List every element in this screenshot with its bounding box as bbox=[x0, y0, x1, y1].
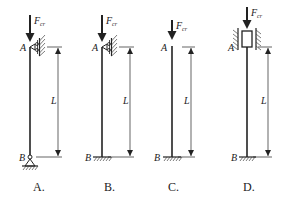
length-label: L bbox=[50, 95, 57, 106]
length-dimension bbox=[108, 47, 134, 157]
column-option-d: Fcr A L B bbox=[227, 7, 272, 194]
point-a-label: A bbox=[227, 42, 235, 53]
fixed-support-icon bbox=[93, 157, 112, 161]
point-a-label: A bbox=[160, 42, 168, 53]
fixed-support-icon bbox=[239, 157, 256, 161]
point-b-label: B bbox=[231, 152, 237, 163]
force-label: Fcr bbox=[175, 20, 188, 32]
force-label: Fcr bbox=[250, 7, 263, 19]
option-d-caption: D. bbox=[243, 180, 255, 194]
column-option-a: Fcr A L B bbox=[19, 15, 62, 194]
buckling-diagram: Fcr A L B bbox=[0, 0, 285, 202]
option-b-caption: B. bbox=[104, 180, 115, 194]
point-b-label: B bbox=[19, 152, 25, 163]
roller-guide-support-icon bbox=[30, 35, 45, 56]
roller-guide-support-icon bbox=[102, 35, 117, 56]
length-label: L bbox=[122, 95, 129, 106]
option-c-caption: C. bbox=[168, 180, 179, 194]
fixed-support-icon bbox=[163, 157, 182, 161]
column-option-c: Fcr A L B C. bbox=[154, 20, 195, 194]
option-a-caption: A. bbox=[33, 180, 45, 194]
force-label: Fcr bbox=[33, 15, 46, 27]
point-b-label: B bbox=[85, 152, 91, 163]
length-label: L bbox=[183, 95, 190, 106]
length-dimension bbox=[36, 47, 62, 157]
column-option-b: Fcr A L B bbox=[85, 15, 134, 194]
point-a-label: A bbox=[91, 42, 99, 53]
force-label: Fcr bbox=[105, 15, 118, 27]
sliding-sleeve-support-icon bbox=[233, 28, 261, 50]
point-a-label: A bbox=[19, 42, 27, 53]
length-label: L bbox=[260, 95, 267, 106]
point-b-label: B bbox=[154, 152, 160, 163]
